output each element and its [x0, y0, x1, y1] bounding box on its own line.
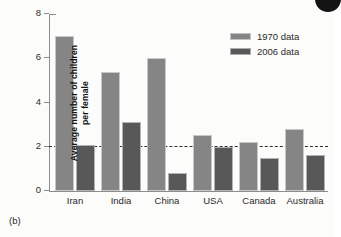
bar[interactable]: [147, 58, 166, 191]
y-axis-line: [49, 14, 50, 192]
figure-caption: (b): [9, 215, 21, 226]
legend-swatch: [230, 33, 251, 40]
bar[interactable]: [214, 147, 233, 191]
y-axis-tick-label: 2: [36, 139, 41, 153]
y-axis-tick-label: 0: [36, 183, 41, 197]
legend-item[interactable]: 1970 data: [230, 30, 299, 43]
bar[interactable]: [260, 158, 279, 191]
y-axis-title-line-1: Average number of children: [69, 45, 79, 161]
bar[interactable]: [306, 155, 325, 192]
y-axis-tick: 4: [44, 102, 49, 103]
y-axis-tick: 0: [44, 190, 49, 191]
legend-swatch: [230, 48, 251, 55]
bar[interactable]: [168, 173, 187, 191]
bar-group: USA: [193, 14, 234, 191]
x-axis-line: [49, 191, 328, 192]
legend-item[interactable]: 2006 data: [230, 45, 299, 58]
y-axis-tick-label: 6: [36, 50, 41, 64]
x-axis-category-label: Australia: [275, 195, 335, 206]
bar[interactable]: [239, 142, 258, 191]
y-axis-tick: 6: [44, 57, 49, 58]
y-axis-title: Average number of children per female: [69, 28, 91, 178]
scan-artifact-blob: [315, 0, 341, 12]
bar[interactable]: [285, 129, 304, 191]
y-axis-title-line-2: per female: [80, 81, 90, 125]
bar-group: India: [101, 14, 142, 191]
bar[interactable]: [101, 72, 120, 191]
bar-group: China: [147, 14, 188, 191]
bar[interactable]: [193, 135, 212, 191]
legend-label: 2006 data: [257, 46, 299, 57]
legend: 1970 data2006 data: [230, 30, 299, 60]
y-axis-tick-label: 4: [36, 95, 41, 109]
y-axis-tick: 8: [44, 13, 49, 14]
bar[interactable]: [122, 122, 141, 191]
legend-label: 1970 data: [257, 31, 299, 42]
y-axis-tick-label: 8: [36, 6, 41, 20]
